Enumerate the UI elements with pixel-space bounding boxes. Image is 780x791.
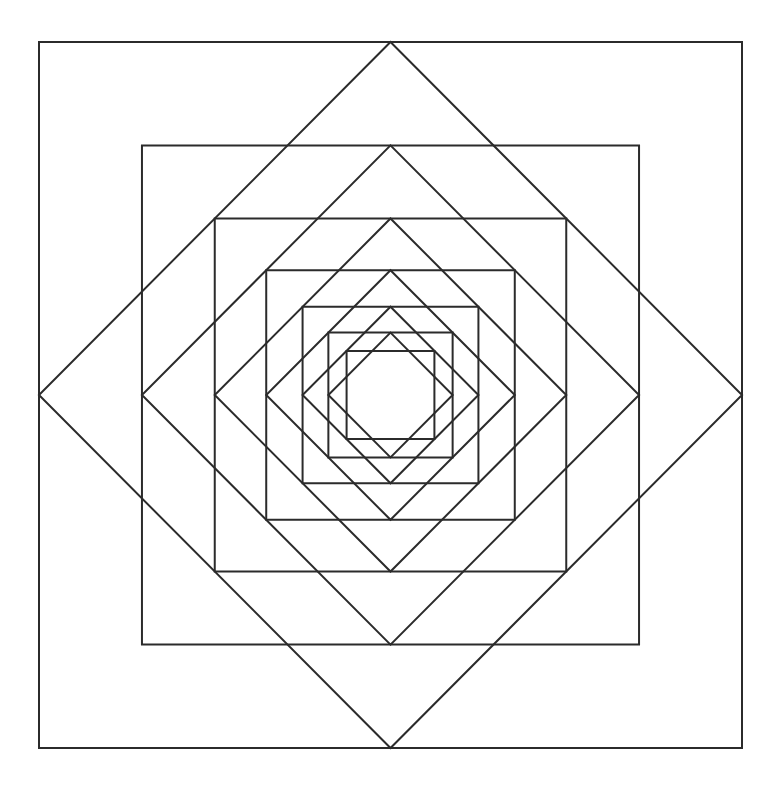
figure-background [0, 0, 780, 791]
geometric-figure-canvas: Nested Alternating Squares A recursive f… [0, 0, 780, 791]
